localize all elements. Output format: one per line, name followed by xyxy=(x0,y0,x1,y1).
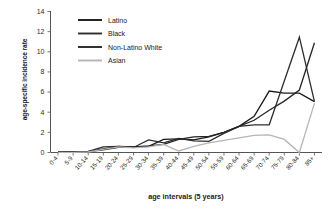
y-axis-ticks: 02468101214 xyxy=(37,8,51,156)
legend-label-non-latino-white: Non-Latino White xyxy=(108,44,162,51)
x-tick-label: 70-74 xyxy=(254,154,270,171)
y-tick-label: 2 xyxy=(41,129,45,136)
x-tick-label: 40-44 xyxy=(164,154,180,171)
y-tick-label: 4 xyxy=(41,109,45,116)
line-chart-plot: 02468101214 0-45-910-1415-1920-2425-2930… xyxy=(0,0,334,212)
x-tick-label: 55-59 xyxy=(209,154,225,171)
x-tick-label: 30-34 xyxy=(133,154,149,171)
x-tick-label: 75-79 xyxy=(269,154,285,171)
x-tick-label: 65-69 xyxy=(239,154,255,171)
x-tick-label: 50-54 xyxy=(194,154,210,171)
x-tick-label: 10-14 xyxy=(73,154,89,171)
legend-label-asian: Asian xyxy=(108,57,126,64)
y-tick-label: 0 xyxy=(41,149,45,156)
y-tick-label: 12 xyxy=(37,28,45,35)
x-tick-label: 0-4 xyxy=(48,154,60,166)
legend-label-latino: Latino xyxy=(108,17,127,24)
chart-legend: LatinoBlackNon-Latino WhiteAsian xyxy=(78,17,162,65)
x-tick-label: 5-9 xyxy=(63,154,75,166)
x-tick-label: 25-29 xyxy=(118,154,134,171)
chart-figure: age-specific incidence rate age interval… xyxy=(0,0,334,212)
series-line-asian xyxy=(58,103,314,152)
legend-label-black: Black xyxy=(108,30,126,37)
x-tick-label: 80-84 xyxy=(284,154,300,171)
y-tick-label: 6 xyxy=(41,88,45,95)
y-tick-label: 10 xyxy=(37,48,45,55)
x-tick-label: 35-39 xyxy=(149,154,165,171)
series-line-black xyxy=(58,37,314,152)
x-tick-label: 85+ xyxy=(303,154,315,167)
x-axis-ticks: 0-45-910-1415-1920-2425-2930-3435-3940-4… xyxy=(48,153,316,171)
y-tick-label: 8 xyxy=(41,68,45,75)
data-series-group xyxy=(58,37,314,152)
series-line-non-latino-white xyxy=(58,43,314,152)
x-tick-label: 45-49 xyxy=(179,154,195,171)
y-tick-label: 14 xyxy=(37,8,45,15)
x-tick-label: 60-64 xyxy=(224,154,240,171)
x-tick-label: 20-24 xyxy=(103,154,119,171)
x-tick-label: 15-19 xyxy=(88,154,104,171)
series-line-latino xyxy=(58,91,314,152)
